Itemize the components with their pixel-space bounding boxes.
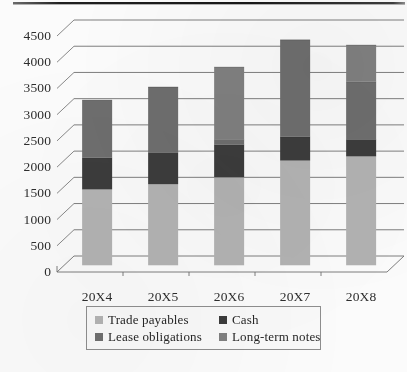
y-tick-label-4500: 4500 <box>5 29 51 42</box>
category-axis-ticks <box>123 272 321 276</box>
legend-label-lease-obligations: Lease obligations <box>108 330 202 344</box>
bar-segment-20x4-cash <box>82 158 112 189</box>
bar-segment-20x8-cash <box>346 139 376 156</box>
y-tick-label-3000: 3000 <box>5 108 51 121</box>
bar-segment-20x6-lease-obligations <box>214 139 244 144</box>
legend-item-trade-payables: Trade payables <box>95 313 219 327</box>
bar-segment-20x6-long-term-notes <box>214 67 244 139</box>
bar-segment-20x8-lease-obligations <box>346 82 376 140</box>
bar-segment-20x8-long-term-notes <box>346 45 376 82</box>
chart-plot-area <box>0 18 407 288</box>
chart-legend: Trade payables Cash Lease obligations Lo… <box>86 306 321 350</box>
legend-item-long-term-notes: Long-term notes <box>219 330 321 344</box>
page-top-rule <box>13 2 405 4</box>
y-tick-label-500: 500 <box>5 239 51 252</box>
stacked-column-chart: 050010001500200025003000350040004500 <box>0 18 407 288</box>
y-tick-label-0: 0 <box>5 265 51 278</box>
bar-segment-20x6-trade-payables <box>214 177 244 265</box>
y-axis-tick-labels: 050010001500200025003000350040004500 <box>0 18 51 288</box>
legend-item-cash: Cash <box>219 313 321 327</box>
legend-label-trade-payables: Trade payables <box>108 313 189 327</box>
bar-segment-20x5-trade-payables <box>148 184 178 265</box>
bar-segment-20x7-cash <box>280 137 310 161</box>
x-tick-label-20x7: 20X7 <box>267 289 323 304</box>
legend-swatch-lease-obligations <box>95 333 103 341</box>
bar-group-20x5 <box>148 87 178 265</box>
bar-segment-20x6-cash <box>214 145 244 178</box>
bar-group-20x4 <box>82 100 112 265</box>
legend-swatch-long-term-notes <box>219 333 227 341</box>
legend-label-cash: Cash <box>232 313 259 327</box>
bar-segment-20x4-trade-payables <box>82 189 112 265</box>
bar-group-20x8 <box>346 45 376 265</box>
bar-segment-20x5-cash <box>148 153 178 184</box>
gridline-4500 <box>57 20 404 36</box>
legend-swatch-trade-payables <box>95 316 103 324</box>
y-tick-label-1500: 1500 <box>5 186 51 199</box>
bar-segment-20x5-lease-obligations <box>148 87 178 153</box>
bar-segment-20x8-trade-payables <box>346 156 376 265</box>
y-tick-label-4000: 4000 <box>5 55 51 68</box>
bar-segment-20x7-trade-payables <box>280 160 310 265</box>
legend-swatch-cash <box>219 316 227 324</box>
bar-segment-20x7-lease-obligations <box>280 40 310 137</box>
legend-item-lease-obligations: Lease obligations <box>95 330 219 344</box>
y-tick-label-2500: 2500 <box>5 134 51 147</box>
bar-segment-20x4-lease-obligations <box>82 100 112 158</box>
bar-group-20x6 <box>214 67 244 265</box>
x-tick-label-20x5: 20X5 <box>135 289 191 304</box>
x-tick-label-20x8: 20X8 <box>333 289 389 304</box>
legend-label-long-term-notes: Long-term notes <box>232 330 321 344</box>
y-tick-label-3500: 3500 <box>5 81 51 94</box>
bar-group-20x7 <box>280 40 310 266</box>
x-tick-label-20x4: 20X4 <box>69 289 125 304</box>
y-tick-label-1000: 1000 <box>5 213 51 226</box>
y-tick-label-2000: 2000 <box>5 160 51 173</box>
x-tick-label-20x6: 20X6 <box>201 289 257 304</box>
